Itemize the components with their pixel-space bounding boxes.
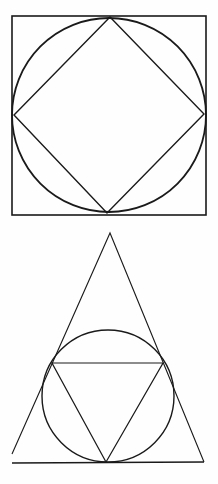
inscribed-inverted-triangle: [52, 363, 163, 462]
inscribed-circle-top: [12, 18, 206, 212]
inscribed-diamond: [14, 17, 204, 213]
outer-triangle-sides: [12, 233, 204, 462]
square-circle-diamond-figure: [12, 16, 206, 215]
inscribed-circle-bottom: [42, 330, 174, 462]
triangle-circle-triangle-figure: [12, 233, 204, 463]
geometry-figure: [0, 0, 218, 484]
diagram-canvas: [0, 0, 218, 484]
